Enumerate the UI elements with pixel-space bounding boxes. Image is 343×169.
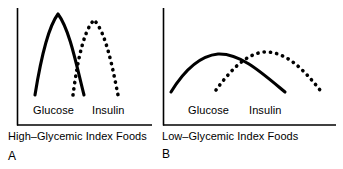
panel-b-plot <box>160 0 343 169</box>
panel-b-letter: B <box>162 148 170 161</box>
panel-b-glucose-label: Glucose <box>188 104 229 116</box>
panel-a-insulin-label: Insulin <box>92 104 125 116</box>
panel-a-glucose-curve <box>35 14 84 95</box>
panel-b-caption: Low–Glycemic Index Foods <box>162 130 298 142</box>
figure-canvas: Glucose Insulin High–Glycemic Index Food… <box>0 0 343 169</box>
panel-a-plot <box>0 0 160 169</box>
panel-a-caption: High–Glycemic Index Foods <box>8 130 147 142</box>
panel-b-insulin-label: Insulin <box>249 104 282 116</box>
panel-b-glucose-curve <box>171 54 285 92</box>
panel-a-letter: A <box>8 150 16 163</box>
panel-a: Glucose Insulin High–Glycemic Index Food… <box>0 0 160 169</box>
panel-a-glucose-label: Glucose <box>33 104 74 116</box>
panel-b-insulin-curve <box>216 52 320 90</box>
panel-b: Glucose Insulin Low–Glycemic Index Foods… <box>160 0 343 169</box>
